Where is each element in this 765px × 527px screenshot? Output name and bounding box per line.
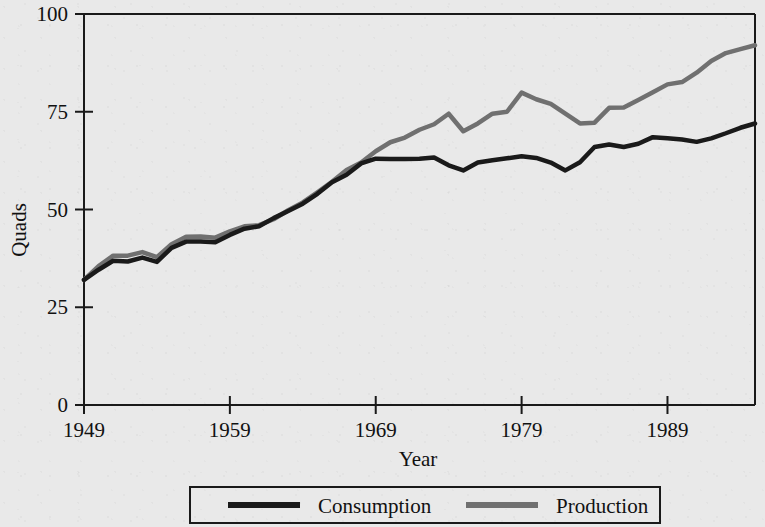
chart-legend: Consumption Production bbox=[190, 487, 660, 523]
y-tick-label: 100 bbox=[37, 2, 69, 26]
plot-frame bbox=[84, 14, 755, 405]
x-tick-label: 1949 bbox=[63, 418, 105, 442]
legend-label-consumption: Consumption bbox=[318, 494, 432, 518]
x-axis-title: Year bbox=[399, 447, 438, 471]
y-tick-label: 50 bbox=[47, 198, 68, 222]
data-series-group bbox=[84, 45, 755, 280]
x-tick-label: 1959 bbox=[209, 418, 251, 442]
x-tick-label: 1979 bbox=[501, 418, 543, 442]
y-tick-label: 25 bbox=[47, 295, 68, 319]
legend-label-production: Production bbox=[556, 494, 649, 518]
y-axis-tick-labels: 0255075100 bbox=[37, 2, 69, 417]
series-line-consumption bbox=[84, 123, 755, 279]
y-axis-title: Quads bbox=[7, 203, 31, 257]
series-line-production bbox=[84, 45, 755, 280]
chart-svg: 0255075100 19491959196919791989 Quads Ye… bbox=[0, 0, 765, 527]
x-tick-label: 1989 bbox=[646, 418, 688, 442]
y-tick-label: 75 bbox=[47, 100, 68, 124]
line-chart: 0255075100 19491959196919791989 Quads Ye… bbox=[0, 0, 765, 527]
y-tick-label: 0 bbox=[58, 393, 69, 417]
x-tick-label: 1969 bbox=[355, 418, 397, 442]
x-axis-tick-labels: 19491959196919791989 bbox=[63, 418, 688, 442]
